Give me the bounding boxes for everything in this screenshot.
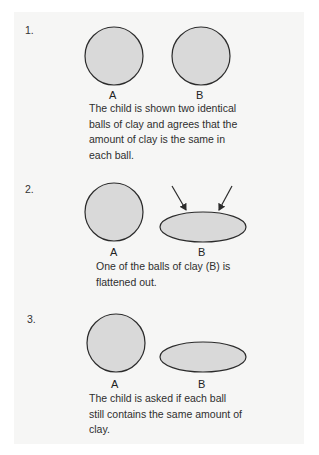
caption-line: One of the balls of clay (B) is [96,259,276,275]
step-caption: The child is asked if each ball still co… [89,391,279,438]
label-b: B [198,378,205,390]
step-number: 1. [25,24,34,36]
step-number: 3. [27,313,36,325]
caption-line: flattened out. [96,275,276,291]
step-number: 2. [25,183,34,195]
caption-line: still contains the same amount of [89,407,279,423]
clay-ball-a-step3 [87,314,145,372]
caption-line: The child is shown two identical [89,101,269,117]
step-caption: One of the balls of clay (B) is flattene… [96,259,276,290]
caption-line: balls of clay and agrees that the [89,117,269,133]
arrow-right-icon [219,186,232,210]
clay-ball-a-step1 [85,27,143,85]
clay-flattened-b-step3 [160,342,246,372]
arrow-left-icon [172,186,186,210]
label-b: B [198,246,205,258]
clay-ball-a-step2 [85,183,143,241]
conservation-diagram [0,0,319,455]
caption-line: clay. [89,422,279,438]
clay-flattened-b-step2 [160,212,246,242]
caption-line: amount of clay is the same in [89,132,269,148]
label-a: A [110,246,117,258]
label-a: A [109,89,116,101]
caption-line: The child is asked if each ball [89,391,279,407]
clay-ball-b-step1 [172,27,230,85]
caption-line: each ball. [89,148,269,164]
label-a: A [111,378,118,390]
step-caption: The child is shown two identical balls o… [89,101,269,163]
label-b: B [196,89,203,101]
